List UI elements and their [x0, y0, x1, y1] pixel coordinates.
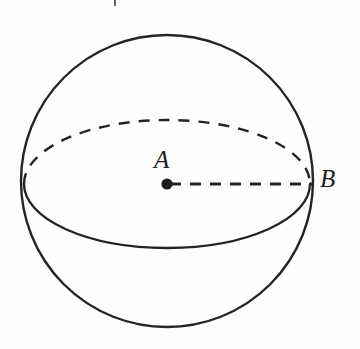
sphere-drawing-canvas	[0, 0, 360, 349]
surface-point-label-b: B	[320, 166, 335, 191]
center-point-label-a: A	[154, 147, 169, 172]
sphere-diagram: A B	[0, 0, 360, 349]
equator-front-half-solid-arc	[24, 184, 310, 248]
scan-artifact-mark	[114, 0, 116, 6]
center-point-dot	[161, 178, 172, 189]
